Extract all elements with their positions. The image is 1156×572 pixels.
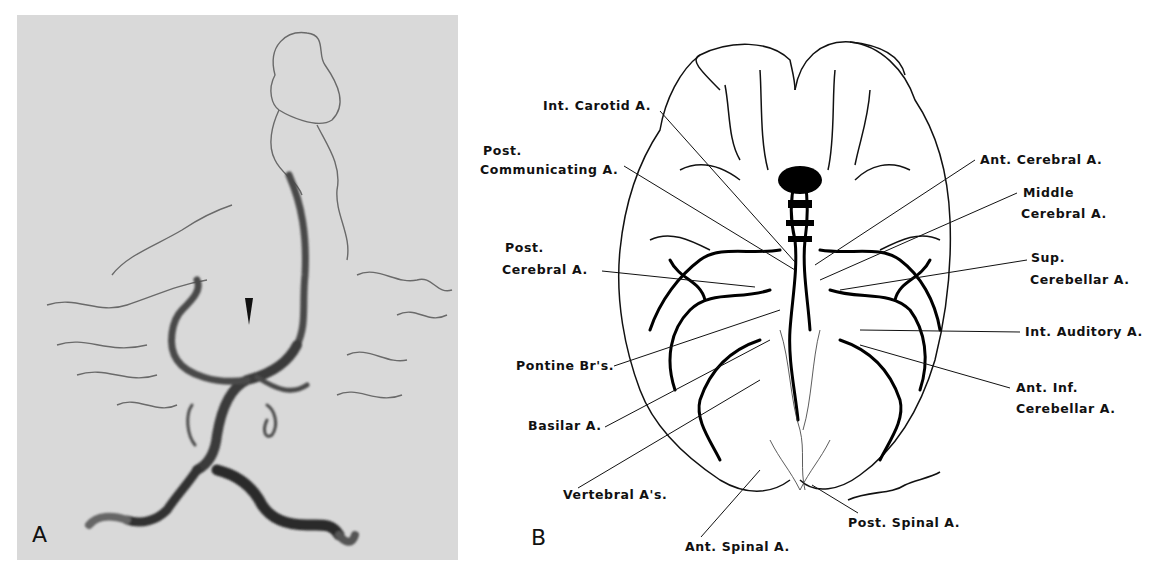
label-ant-inf-cerebellar-line1: Ant. Inf. <box>1016 378 1078 398</box>
label-vertebral: Vertebral A's. <box>563 485 667 505</box>
label-middle-cerebral-line1: Middle <box>1023 183 1074 203</box>
label-post-cerebral-line1: Post. <box>505 238 544 258</box>
label-post-communicating-line1: Post. <box>483 141 522 161</box>
label-sup-cerebellar-line1: Sup. <box>1031 248 1065 268</box>
label-post-communicating-line2: Communicating A. <box>480 160 618 180</box>
panel-letter-b: B <box>531 525 546 550</box>
label-sup-cerebellar-line2: Cerebellar A. <box>1030 270 1130 290</box>
label-post-cerebral-line2: Cerebral A. <box>502 260 588 280</box>
label-pontine-brs: Pontine Br's. <box>516 356 614 376</box>
label-int-carotid: Int. Carotid A. <box>543 96 651 116</box>
label-ant-cerebral: Ant. Cerebral A. <box>980 150 1102 170</box>
label-middle-cerebral-line2: Cerebral A. <box>1021 204 1107 224</box>
label-ant-spinal: Ant. Spinal A. <box>685 537 790 557</box>
label-basilar: Basilar A. <box>528 416 602 436</box>
artist-signature <box>848 472 940 500</box>
label-int-auditory: Int. Auditory A. <box>1025 322 1143 342</box>
label-post-spinal: Post. Spinal A. <box>848 513 960 533</box>
label-ant-inf-cerebellar-line2: Cerebellar A. <box>1016 399 1116 419</box>
